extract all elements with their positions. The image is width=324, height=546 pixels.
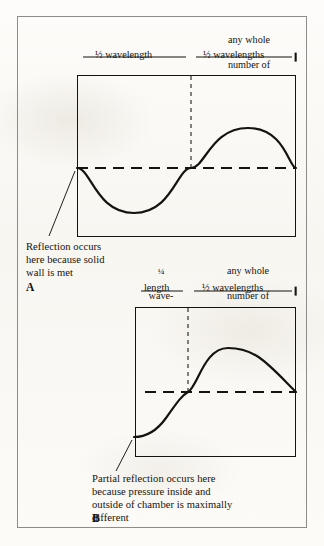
panel-a-right-dimension-endcap — [295, 53, 297, 62]
figure-page: any whole number of ½ wavelength ½ wavel… — [0, 0, 324, 546]
panel-b-right-dimension-endcap — [295, 287, 297, 296]
panel-a-dimension-arrows — [83, 53, 297, 62]
panel-a-wave-curve — [77, 128, 296, 213]
figure-vector-layer — [0, 0, 324, 546]
panel-b-pointer-arrow — [116, 440, 132, 471]
panel-b-dimension-arrows — [141, 287, 297, 296]
panel-a-pointer-arrow — [49, 171, 75, 236]
